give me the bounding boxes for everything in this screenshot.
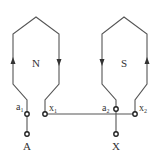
winding-diagram: N S a1 x1 a2 x2 A X	[0, 0, 160, 155]
arrow-up-icon	[11, 57, 16, 64]
label-a1: a1	[16, 101, 23, 113]
terminal-a2	[114, 107, 118, 111]
coil-s: S	[100, 17, 150, 112]
label-x2: x2	[139, 102, 147, 114]
terminal-a1	[25, 112, 29, 116]
pole-label-s: S	[121, 57, 127, 69]
arrow-down-icon	[57, 59, 62, 66]
terminal-x2	[133, 112, 137, 116]
pole-label-n: N	[32, 57, 40, 69]
label-x1: x1	[49, 102, 57, 114]
label-X: X	[112, 140, 120, 152]
terminal-x1	[43, 112, 47, 116]
label-a2: a2	[102, 102, 109, 114]
coil-n: N	[11, 17, 62, 112]
terminal-A	[25, 132, 29, 136]
arrow-down-icon	[100, 59, 105, 66]
arrow-up-icon	[145, 57, 150, 64]
label-A: A	[23, 140, 31, 152]
terminal-X	[114, 132, 118, 136]
